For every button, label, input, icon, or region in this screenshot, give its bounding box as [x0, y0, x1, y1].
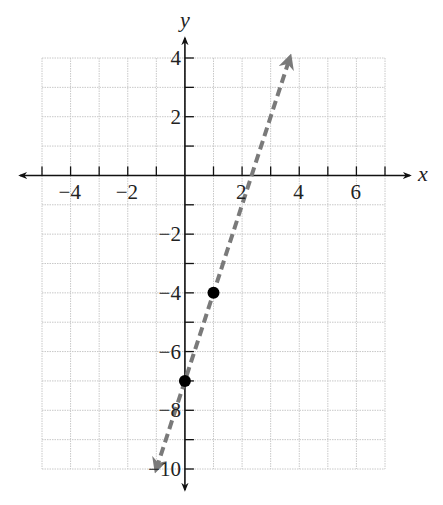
x-tick-label: 4	[293, 180, 304, 204]
data-point	[208, 287, 220, 299]
chart-canvas: xy −4−224642−2−4−6−8−10	[0, 0, 443, 505]
axes: xy	[20, 7, 428, 490]
y-tick-label: −2	[159, 222, 181, 246]
grid	[42, 58, 385, 469]
y-axis-label: y	[178, 7, 190, 32]
x-axis-label: x	[417, 161, 428, 186]
x-tick-label: 6	[350, 180, 361, 204]
coordinate-plane-chart: xy −4−224642−2−4−6−8−10	[0, 0, 443, 505]
y-tick-label: −8	[159, 398, 181, 422]
x-tick-label: 2	[236, 180, 247, 204]
y-tick-label: 4	[170, 46, 181, 70]
x-tick-label: −4	[59, 180, 82, 204]
y-tick-label: 2	[170, 105, 181, 129]
data-point	[179, 375, 191, 387]
y-tick-label: −10	[148, 457, 181, 481]
y-tick-label: −4	[159, 281, 182, 305]
x-tick-label: −2	[116, 180, 138, 204]
y-tick-label: −6	[159, 340, 181, 364]
